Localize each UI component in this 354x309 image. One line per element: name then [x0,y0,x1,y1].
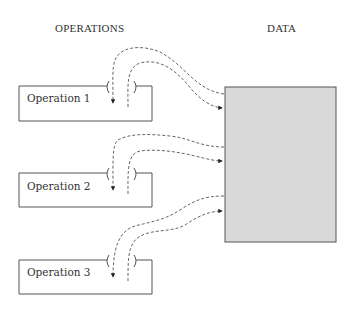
operation-1-label: Operation 1 [27,92,91,104]
close-bracket-icon [134,255,136,267]
operation-3-label: Operation 3 [27,266,91,278]
data-heading: DATA [267,22,296,34]
write-flow-1 [128,62,222,108]
operations-data-diagram [0,0,354,309]
write-flow-3 [128,211,222,281]
open-bracket-icon [107,255,109,267]
open-bracket-icon [107,81,109,93]
read-flow-3 [113,196,224,277]
write-flow-2 [128,150,222,194]
operations-heading: OPERATIONS [55,22,124,34]
open-bracket-icon [107,168,109,180]
data-store-box [225,87,336,242]
operation-2-label: Operation 2 [27,180,91,192]
close-bracket-icon [134,81,136,93]
close-bracket-icon [134,168,136,180]
